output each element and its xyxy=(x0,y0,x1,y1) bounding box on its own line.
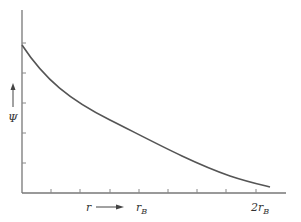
x-axis-label: r xyxy=(86,201,92,214)
y-axis-arrow-icon xyxy=(11,83,16,107)
x-tick-label-rb: rB xyxy=(136,201,147,216)
y-axis-label: Ψ xyxy=(8,112,18,125)
psi-curve xyxy=(22,45,270,187)
x-axis-arrow-icon xyxy=(96,205,124,210)
x-tick-label-2rb: 2rB xyxy=(250,201,269,216)
chart-canvas: Ψ r rB 2rB xyxy=(0,0,301,222)
